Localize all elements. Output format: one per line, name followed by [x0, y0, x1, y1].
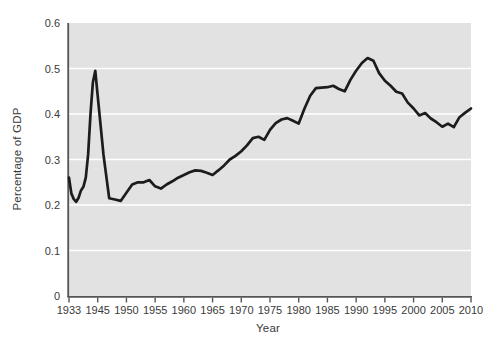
- y-tick-label: 0: [54, 290, 60, 302]
- y-tick-label: 0.4: [45, 108, 60, 120]
- x-tick-label: 1945: [85, 304, 109, 316]
- line-chart-canvas: 1933194519501955196019651970197519801985…: [0, 0, 502, 357]
- x-tick-label: 1960: [172, 304, 196, 316]
- x-tick-label: 2005: [430, 304, 454, 316]
- y-tick-label: 0.6: [45, 17, 60, 29]
- x-axis-title: Year: [256, 322, 280, 334]
- x-tick-label: 2000: [401, 304, 425, 316]
- x-tick-label: 1970: [229, 304, 253, 316]
- x-tick-label: 1995: [373, 304, 397, 316]
- x-tick-label: 1975: [258, 304, 282, 316]
- x-tick-label: 1950: [114, 304, 138, 316]
- x-tick-label: 1980: [286, 304, 310, 316]
- x-tick-label: 1955: [143, 304, 167, 316]
- y-axis-title: Percentage of GDP: [11, 107, 23, 210]
- x-tick-label: 2010: [459, 304, 483, 316]
- y-tick-label: 0.5: [45, 63, 60, 75]
- x-tick-label: 1985: [315, 304, 339, 316]
- x-tick-label: 1965: [200, 304, 224, 316]
- x-tick-label: 1990: [344, 304, 368, 316]
- gdp-percentage-line-chart: 1933194519501955196019651970197519801985…: [0, 0, 502, 357]
- y-tick-label: 0.3: [45, 154, 60, 166]
- y-tick-label: 0.2: [45, 199, 60, 211]
- x-tick-label: 1933: [57, 304, 81, 316]
- y-tick-label: 0.1: [45, 245, 60, 257]
